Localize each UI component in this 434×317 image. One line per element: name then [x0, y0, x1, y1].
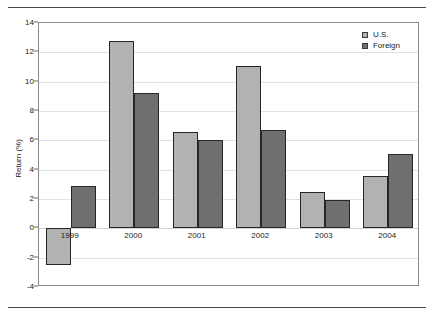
legend-item-us: U.S.	[362, 31, 400, 39]
y-axis-tick: -4	[8, 282, 34, 291]
bars-layer	[39, 23, 418, 285]
legend-swatch-foreign-icon	[362, 43, 368, 49]
bar-2000-us	[109, 41, 134, 229]
x-axis-tick-2002: 2002	[251, 231, 269, 240]
bar-2001-foreign	[198, 140, 223, 228]
legend-label-foreign: Foreign	[373, 42, 400, 50]
x-axis-tick-2000: 2000	[124, 231, 142, 240]
x-axis-tick-2003: 2003	[315, 231, 333, 240]
bottom-rule	[8, 307, 426, 308]
legend-swatch-us-icon	[362, 32, 368, 38]
bar-2004-us	[363, 176, 388, 229]
bar-2002-foreign	[261, 130, 286, 228]
bar-2003-foreign	[325, 200, 350, 228]
bar-1999-foreign	[71, 186, 96, 229]
legend-item-foreign: Foreign	[362, 42, 400, 50]
chart-legend: U.S. Foreign	[362, 31, 400, 53]
y-axis-tick: 0	[8, 223, 34, 232]
legend-label-us: U.S.	[373, 31, 389, 39]
chart-figure: Return (%) -4-202468101214 U.S. Foreign …	[0, 0, 434, 317]
y-axis-tick: 10	[8, 76, 34, 85]
bar-2000-foreign	[134, 93, 159, 228]
y-axis-tick: -2	[8, 252, 34, 261]
y-axis-tick: 12	[8, 47, 34, 56]
x-axis-tick-2001: 2001	[188, 231, 206, 240]
top-rule	[8, 7, 426, 8]
x-axis-tick-2004: 2004	[378, 231, 396, 240]
y-axis-tick: 8	[8, 106, 34, 115]
bar-2004-foreign	[388, 154, 413, 229]
y-axis-tick: 14	[8, 18, 34, 27]
bar-2002-us	[236, 66, 261, 229]
plot-area: U.S. Foreign	[38, 22, 419, 286]
y-axis-title: Return (%)	[14, 129, 23, 189]
y-axis-tick: 2	[8, 194, 34, 203]
x-axis-tick-1999: 1999	[61, 231, 79, 240]
bar-2003-us	[300, 192, 325, 229]
bar-2001-us	[173, 132, 198, 229]
